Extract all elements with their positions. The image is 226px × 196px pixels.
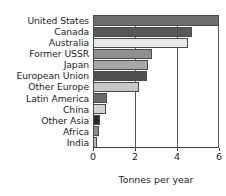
- category-label: Africa: [0, 126, 89, 137]
- category-label: Other Asia: [0, 115, 89, 126]
- tick-label: 2: [125, 152, 145, 162]
- bar: [93, 137, 97, 147]
- bar: [93, 82, 139, 92]
- bar-chart: United StatesCanadaAustraliaFormer USSRJ…: [0, 0, 226, 196]
- bar: [93, 126, 99, 136]
- category-label: European Union: [0, 70, 89, 81]
- category-axis-labels: United StatesCanadaAustraliaFormer USSRJ…: [0, 15, 89, 148]
- bar: [93, 15, 219, 25]
- category-label: Canada: [0, 26, 89, 37]
- bar: [93, 38, 188, 48]
- gridline: [218, 15, 219, 148]
- category-label: China: [0, 104, 89, 115]
- tick-label: 0: [83, 152, 103, 162]
- category-label: United States: [0, 15, 89, 26]
- plot-area: [93, 15, 219, 148]
- bar: [93, 27, 192, 37]
- category-label: Other Europe: [0, 81, 89, 92]
- category-label: Former USSR: [0, 48, 89, 59]
- bar: [93, 60, 148, 70]
- bar: [93, 115, 100, 125]
- bar: [93, 71, 147, 81]
- bar: [93, 49, 152, 59]
- category-label: Australia: [0, 37, 89, 48]
- x-axis-title: Tonnes per year: [93, 174, 219, 185]
- category-label: India: [0, 137, 89, 148]
- tick-label: 6: [209, 152, 226, 162]
- category-label: Japan: [0, 59, 89, 70]
- tick-label: 4: [167, 152, 187, 162]
- bar: [93, 93, 107, 103]
- bar: [93, 104, 106, 114]
- category-label: Latin America: [0, 93, 89, 104]
